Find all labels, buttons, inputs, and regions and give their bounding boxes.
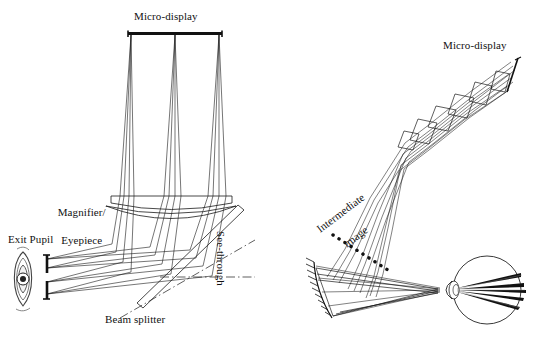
- label-see-through: See-through: [214, 231, 227, 286]
- label-magnifier-line1: Magnifier/: [58, 206, 106, 218]
- eyepiece-lens-element-1: [111, 196, 232, 210]
- relay-lens-group: [398, 71, 510, 150]
- label-microdisplay-left: Micro-display: [134, 10, 198, 23]
- beam-splitter-plate: [137, 205, 244, 308]
- label-magnifier-line2: Eyepiece: [61, 234, 102, 246]
- optical-diagram-figure: Micro-display Magnifier/ Eyepiece Exit P…: [0, 0, 537, 338]
- eyeball-illustration-right: [446, 256, 526, 324]
- label-beam-splitter: Beam splitter: [105, 313, 165, 326]
- eye-illustration-left: [14, 247, 31, 311]
- exit-pupil-stops: [43, 255, 50, 299]
- label-magnifier-eyepiece: Magnifier/ Eyepiece: [44, 191, 108, 261]
- label-microdisplay-right: Micro-display: [443, 39, 507, 52]
- freeform-mirror-surface: [306, 258, 332, 318]
- label-exit-pupil: Exit Pupil: [8, 233, 53, 246]
